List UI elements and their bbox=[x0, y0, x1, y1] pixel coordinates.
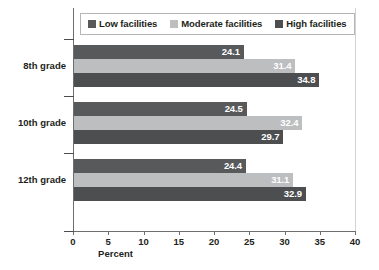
bar-value-label: 31.1 bbox=[271, 175, 293, 185]
bar-value-label: 24.4 bbox=[224, 161, 246, 171]
x-axis-tick-label: 5 bbox=[106, 237, 111, 247]
x-axis-tick-label: 30 bbox=[279, 237, 290, 247]
bar-value-label: 24.1 bbox=[222, 47, 244, 57]
bar-value-label: 34.8 bbox=[297, 75, 319, 85]
x-axis-tick-label: 15 bbox=[173, 237, 184, 247]
x-axis-tick bbox=[249, 231, 250, 235]
bar-group: 24.532.429.7 bbox=[74, 102, 356, 144]
x-axis-tick bbox=[285, 231, 286, 235]
bar-value-label: 32.9 bbox=[284, 189, 306, 199]
x-axis-tick bbox=[144, 231, 145, 235]
bar[interactable]: 31.1 bbox=[74, 173, 293, 187]
y-axis-group-tick bbox=[64, 96, 74, 97]
bar[interactable]: 34.8 bbox=[74, 73, 319, 87]
category-label: 8th grade bbox=[23, 61, 66, 71]
x-axis-tick bbox=[179, 231, 180, 235]
x-axis-tick bbox=[320, 231, 321, 235]
x-axis-tick-label: 25 bbox=[244, 237, 255, 247]
bar[interactable]: 24.5 bbox=[74, 102, 247, 116]
y-axis-group-tick bbox=[64, 231, 74, 232]
bar-value-label: 24.5 bbox=[225, 104, 247, 114]
bar-group: 24.131.434.8 bbox=[74, 45, 356, 87]
x-axis-tick-label: 0 bbox=[70, 237, 75, 247]
bar-chart: Low facilities Moderate facilities High … bbox=[0, 0, 379, 270]
bar[interactable]: 29.7 bbox=[74, 130, 283, 144]
bar-value-label: 29.7 bbox=[261, 132, 283, 142]
x-axis-tick-label: 10 bbox=[138, 237, 149, 247]
bar-value-label: 31.4 bbox=[273, 61, 295, 71]
bar[interactable]: 32.4 bbox=[74, 116, 302, 130]
y-axis-group-tick bbox=[64, 39, 74, 40]
bar[interactable]: 32.9 bbox=[74, 187, 306, 201]
x-axis-tick-label: 20 bbox=[209, 237, 220, 247]
bar-group: 24.431.132.9 bbox=[74, 159, 356, 201]
plot-area: 0510152025303540 24.131.434.824.532.429.… bbox=[73, 8, 356, 231]
category-label: 12th grade bbox=[18, 175, 66, 185]
x-axis-tick-label: 40 bbox=[350, 237, 361, 247]
bar[interactable]: 31.4 bbox=[74, 59, 295, 73]
x-axis-tick bbox=[214, 231, 215, 235]
y-axis-group-tick bbox=[64, 153, 74, 154]
category-label: 10th grade bbox=[18, 118, 66, 128]
x-axis-tick-label: 35 bbox=[314, 237, 325, 247]
bar-value-label: 32.4 bbox=[280, 118, 302, 128]
x-axis-tick bbox=[355, 231, 356, 235]
x-axis-tick bbox=[108, 231, 109, 235]
x-axis-title: Percent bbox=[98, 249, 133, 259]
bar[interactable]: 24.4 bbox=[74, 159, 246, 173]
x-axis-title-wrap: Percent bbox=[0, 249, 379, 259]
bar[interactable]: 24.1 bbox=[74, 45, 244, 59]
